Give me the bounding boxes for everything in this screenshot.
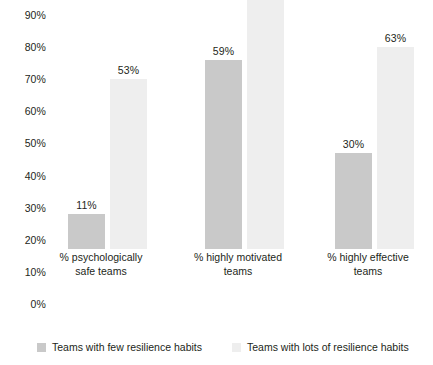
legend-item-series0[interactable]: Teams with few resilience habits [37, 340, 202, 354]
plot-area: 11% 53% % psychologically safe teams 59%… [52, 0, 433, 310]
y-axis-tick: 40% [25, 171, 46, 182]
legend-swatch-icon [232, 343, 241, 352]
bar-series1-cat0[interactable]: 53% [110, 79, 147, 249]
bar-series0-cat0[interactable]: 11% [68, 214, 105, 249]
bar-series1-cat2[interactable]: 63% [377, 47, 414, 249]
y-axis-tick: 30% [25, 203, 46, 214]
legend-label: Teams with lots of resilience habits [247, 341, 409, 353]
bar-chart: 90% 80% 70% 60% 50% 40% 30% 20% 10% 0% 1… [0, 0, 433, 365]
x-axis-category-line: safe teams [39, 265, 163, 279]
bar-value-label: 30% [343, 139, 364, 150]
y-axis-tick: 0% [31, 299, 46, 310]
x-axis-category-line: teams [306, 265, 430, 279]
y-axis-tick: 70% [25, 74, 46, 85]
x-axis-category-line: % psychologically [39, 251, 163, 265]
x-axis-category-label: % psychologically safe teams [39, 251, 163, 278]
y-axis-tick: 90% [25, 10, 46, 21]
bar-value-label: 63% [385, 33, 406, 44]
y-axis-tick: 80% [25, 42, 46, 53]
bar-series0-cat2[interactable]: 30% [335, 153, 372, 249]
bar-series0-cat1[interactable]: 59% [205, 60, 242, 249]
x-axis-category-label: % highly effective teams [306, 251, 430, 278]
x-axis-category-line: teams [176, 265, 300, 279]
x-axis-category-line: % highly motivated [176, 251, 300, 265]
bar-value-label: 53% [118, 65, 139, 76]
legend-item-series1[interactable]: Teams with lots of resilience habits [232, 340, 409, 354]
y-axis-tick: 50% [25, 138, 46, 149]
x-axis-category-label: % highly motivated teams [176, 251, 300, 278]
bar-value-label: 59% [213, 46, 234, 57]
y-axis-tick: 20% [25, 235, 46, 246]
legend: Teams with few resilience habits Teams w… [0, 340, 433, 360]
legend-swatch-icon [37, 343, 46, 352]
x-axis-category-line: % highly effective [306, 251, 430, 265]
bar-series1-cat1[interactable]: 84% [247, 0, 284, 249]
legend-label: Teams with few resilience habits [52, 341, 202, 353]
bar-value-label: 11% [76, 200, 97, 211]
y-axis-tick: 60% [25, 106, 46, 117]
